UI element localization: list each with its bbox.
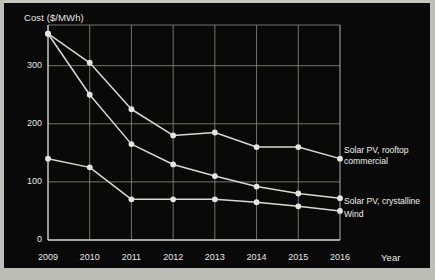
- x-tick-label: 2010: [70, 252, 110, 262]
- data-point: [87, 60, 93, 66]
- series-label-wind: Wind: [344, 209, 364, 220]
- y-tick-label: 0: [16, 234, 42, 244]
- data-point: [254, 184, 260, 190]
- data-point: [129, 196, 135, 202]
- x-tick-label: 2013: [195, 252, 235, 262]
- data-point: [337, 195, 343, 201]
- series-label-solar-pv-rooftop-commercial: Solar PV, rooftop commercial: [344, 145, 409, 166]
- data-point: [337, 156, 343, 162]
- data-point: [295, 191, 301, 197]
- data-point: [295, 203, 301, 209]
- series-label-solar-pv-crystalline: Solar PV, crystalline: [344, 196, 420, 207]
- data-point: [337, 208, 343, 214]
- data-point: [87, 164, 93, 170]
- data-point: [87, 92, 93, 98]
- data-point: [170, 162, 176, 168]
- x-tick-label: 2009: [28, 252, 68, 262]
- data-point: [170, 133, 176, 139]
- data-point: [212, 196, 218, 202]
- series-label-line2: commercial: [344, 156, 409, 167]
- x-tick-label: 2016: [320, 252, 360, 262]
- y-tick-label: 100: [16, 176, 42, 186]
- data-point: [170, 196, 176, 202]
- y-tick-label: 200: [16, 118, 42, 128]
- data-point: [212, 130, 218, 136]
- data-point: [254, 199, 260, 205]
- data-point: [45, 156, 51, 162]
- y-tick-label: 300: [16, 60, 42, 70]
- line-chart-plot: [0, 0, 435, 280]
- x-tick-label: 2014: [237, 252, 277, 262]
- data-point: [45, 31, 51, 37]
- series-label-line1: Solar PV, rooftop: [344, 145, 409, 156]
- x-tick-label: 2011: [111, 252, 151, 262]
- data-point: [295, 144, 301, 150]
- x-tick-label: 2012: [153, 252, 193, 262]
- chart-figure: Cost ($/MWh) Year 0100200300 20092010201…: [0, 0, 435, 280]
- data-point: [212, 173, 218, 179]
- x-tick-label: 2015: [278, 252, 318, 262]
- series-line-1: [48, 34, 340, 198]
- data-point: [254, 144, 260, 150]
- data-point: [129, 106, 135, 112]
- data-point: [129, 141, 135, 147]
